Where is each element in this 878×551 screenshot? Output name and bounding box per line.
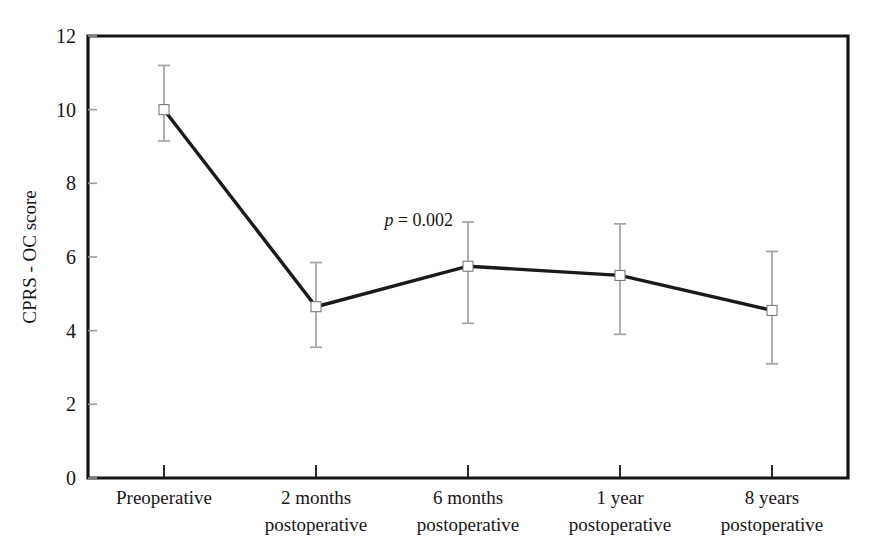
y-tick-label: 0 (66, 467, 76, 489)
data-point-marker (311, 302, 321, 312)
data-point-marker (463, 261, 473, 271)
x-axis-category-label: Preoperative (116, 487, 212, 508)
x-axis-category-label: postoperative (569, 514, 671, 535)
y-tick-label: 12 (56, 25, 76, 47)
p-symbol: p (382, 210, 393, 230)
x-axis-category-label: postoperative (265, 514, 367, 535)
x-axis-category-label: postoperative (721, 514, 823, 535)
chart-annotations: p = 0.002 (382, 210, 453, 230)
data-point-marker (767, 305, 777, 315)
y-tick-label: 6 (66, 246, 76, 268)
y-tick-label: 10 (56, 99, 76, 121)
p-value-annotation: p = 0.002 (382, 210, 453, 230)
x-axis-category-label: 1 year (597, 487, 645, 508)
y-tick-label: 2 (66, 393, 76, 415)
line-chart: 024681012 Preoperative2 monthspostoperat… (0, 0, 878, 551)
y-tick-label: 8 (66, 172, 76, 194)
x-axis-category-label: 8 years (745, 487, 799, 508)
x-axis-category-label: 2 months (281, 487, 351, 508)
p-value-number: = 0.002 (393, 210, 453, 230)
y-axis-title-text: CPRS - OC score (19, 190, 40, 324)
figure-container: 024681012 Preoperative2 monthspostoperat… (0, 0, 878, 551)
y-tick-label: 4 (66, 320, 76, 342)
y-axis-title: CPRS - OC score (19, 190, 40, 324)
data-point-marker (159, 105, 169, 115)
x-axis-category-label: 6 months (433, 487, 503, 508)
x-axis-category-label: postoperative (417, 514, 519, 535)
data-point-marker (615, 270, 625, 280)
